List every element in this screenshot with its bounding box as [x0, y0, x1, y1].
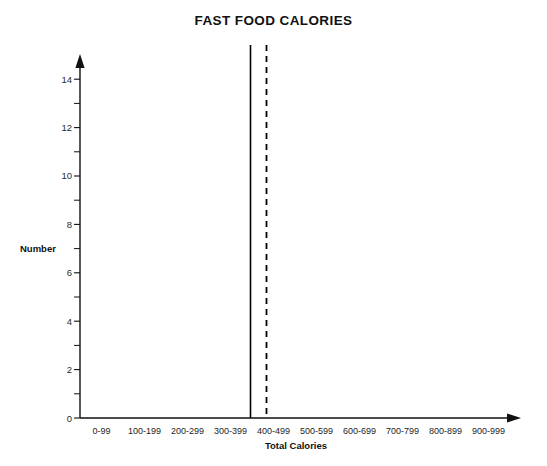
x-axis-arrow-icon: [507, 413, 521, 422]
y-axis-tick-labels: 0 2 4 6 8 10 12 14: [61, 74, 72, 424]
x-axis-tick-labels: 0-99 100-199 200-299 300-399 400-499 500…: [92, 426, 505, 436]
x-tick-label: 0-99: [92, 426, 110, 436]
y-tick-label: 10: [61, 170, 72, 181]
x-tick-label: 600-699: [343, 426, 376, 436]
histogram-chart: FAST FOOD CALORIES Number 0 2 4 6 8 10 1…: [0, 0, 547, 466]
plot-area: Number 0 2 4 6 8 10 12 14: [0, 0, 547, 466]
y-tick-label: 14: [61, 74, 72, 85]
y-tick-label: 8: [67, 219, 72, 230]
x-tick-label: 900-999: [472, 426, 505, 436]
x-tick-label: 100-199: [128, 426, 161, 436]
x-tick-label: 500-599: [300, 426, 333, 436]
y-tick-label: 12: [61, 122, 72, 133]
x-tick-label: 300-399: [214, 426, 247, 436]
y-tick-label: 4: [67, 316, 72, 327]
y-axis-minor-ticks: [74, 103, 80, 393]
x-tick-label: 400-499: [257, 426, 290, 436]
y-tick-label: 2: [67, 364, 72, 375]
y-tick-label: 6: [67, 267, 72, 278]
x-tick-label: 200-299: [171, 426, 204, 436]
y-tick-label: 0: [67, 413, 72, 424]
x-tick-label: 800-899: [429, 426, 462, 436]
y-axis-label: Number: [20, 243, 56, 254]
x-tick-label: 700-799: [386, 426, 419, 436]
y-axis-arrow-icon: [75, 54, 84, 68]
x-axis-label: Total Calories: [265, 440, 327, 451]
